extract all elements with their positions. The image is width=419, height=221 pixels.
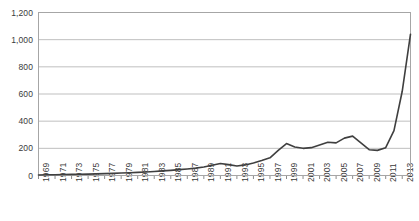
data-series-line [39, 34, 411, 175]
plot-area [0, 0, 419, 221]
x-axis-ticks [39, 176, 403, 180]
line-chart: 02004006008001,0001,200 1969197119731975… [0, 0, 419, 221]
gridlines [39, 13, 411, 149]
